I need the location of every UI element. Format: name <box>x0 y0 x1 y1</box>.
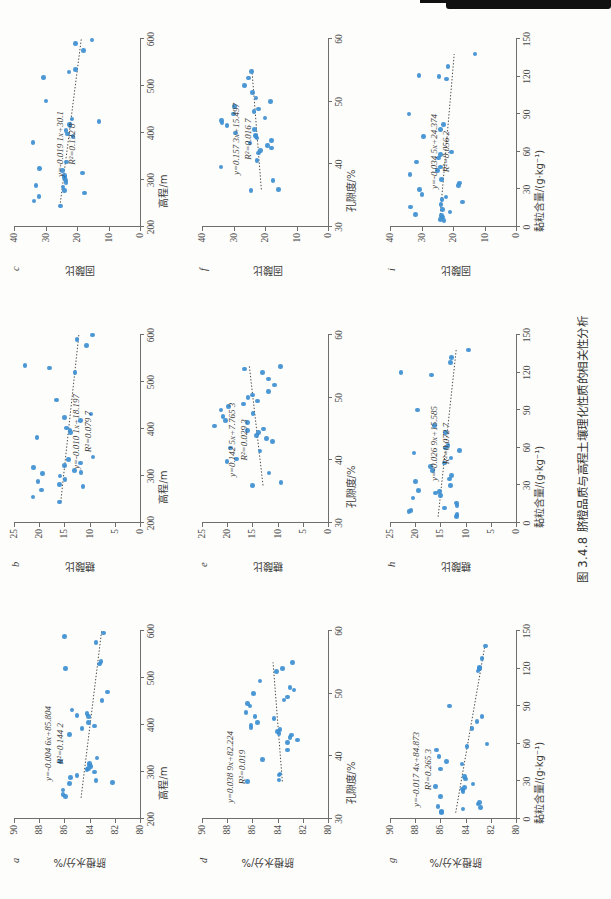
y-axis-line <box>202 522 328 523</box>
data-point <box>81 484 86 489</box>
y-tick <box>390 819 391 823</box>
data-point <box>292 688 297 693</box>
y-tick <box>390 227 391 231</box>
data-point <box>70 708 75 713</box>
data-point <box>289 733 294 738</box>
x-axis-line <box>140 631 141 819</box>
data-point <box>274 669 279 674</box>
scatter-panel-b: b0510152025200300400500600糖酸比高程/my=-0.01… <box>8 319 180 581</box>
data-point <box>57 482 62 487</box>
x-tick <box>140 475 144 476</box>
data-point <box>67 732 72 737</box>
x-tick <box>140 724 144 725</box>
x-tick <box>516 743 520 744</box>
y-tick <box>466 523 467 527</box>
x-axis-line <box>140 335 141 523</box>
y-tick-label: 82 <box>110 825 120 835</box>
data-point <box>251 411 256 416</box>
data-point <box>258 148 263 153</box>
data-point <box>80 171 85 176</box>
y-tick-label: 15 <box>435 529 445 539</box>
figure-caption: 图 3.4.8 脐橙品质与高程土壤理化性质的相关性分析 <box>574 0 590 899</box>
data-point <box>478 805 483 810</box>
data-point <box>457 181 462 186</box>
data-point <box>36 479 41 484</box>
x-axis-title-f: 孔隙度/% <box>343 170 358 213</box>
x-tick <box>140 818 144 819</box>
data-point <box>260 757 265 762</box>
x-tick-label: 150 <box>522 328 532 342</box>
y-tick <box>278 523 279 527</box>
data-point <box>439 809 444 814</box>
data-point <box>277 778 282 783</box>
data-point <box>81 48 86 53</box>
x-tick <box>516 668 520 669</box>
x-tick <box>328 226 332 227</box>
x-tick-label: 40 <box>334 752 344 762</box>
data-point <box>95 756 100 761</box>
regression-annotation-d: y=0.038 9x+82.224R²=0.019 <box>224 731 248 803</box>
y-tick-label: 5 <box>486 529 496 534</box>
data-point <box>461 807 466 812</box>
y-tick <box>115 819 116 823</box>
x-tick <box>328 163 332 164</box>
data-point <box>242 83 247 88</box>
data-point <box>285 748 290 753</box>
x-tick-label: 50 <box>334 393 344 403</box>
y-tick-label: 84 <box>273 825 283 835</box>
data-point <box>251 691 256 696</box>
data-point <box>278 364 283 369</box>
data-point <box>480 656 485 661</box>
y-tick-label: 0 <box>323 529 333 534</box>
x-axis-title-b: 高程/m <box>155 470 170 503</box>
data-point <box>477 665 482 670</box>
panel-letter-d: d <box>198 858 209 863</box>
x-tick <box>516 630 520 631</box>
y-axis-line <box>14 522 140 523</box>
data-point <box>253 714 258 719</box>
x-tick-label: 200 <box>146 220 156 234</box>
data-point <box>54 398 59 403</box>
scatter-panel-c: c010203040200300400500600固酸比高程/my=-0.019… <box>8 23 180 285</box>
data-point <box>37 194 42 199</box>
y-tick <box>39 819 40 823</box>
data-point <box>73 41 78 46</box>
data-point <box>438 794 443 799</box>
regression-annotation-g: y=-0.017 4x+84.873R²=0.265 3 <box>410 732 434 807</box>
y-tick <box>115 523 116 527</box>
y-tick <box>440 819 441 823</box>
data-point <box>454 501 459 506</box>
x-tick <box>140 677 144 678</box>
y-tick <box>252 819 253 823</box>
data-point <box>35 435 40 440</box>
plot-area-g: 8082848688900306090120150 <box>390 631 516 819</box>
data-point <box>460 200 465 205</box>
regression-annotation-i: y=-0.034 5x+24.374R²=0.056 2 <box>428 114 452 189</box>
data-point <box>37 166 42 171</box>
x-tick <box>140 334 144 335</box>
regression-line-h <box>390 335 516 523</box>
data-point <box>473 52 478 57</box>
data-point <box>86 720 91 725</box>
data-point <box>219 165 224 170</box>
y-tick <box>77 227 78 231</box>
y-tick <box>14 227 15 231</box>
y-tick-label: 90 <box>197 825 207 835</box>
y-tick-label: 20 <box>222 529 232 539</box>
x-tick-label: 40 <box>334 160 344 170</box>
scatter-panel-e: e051015202530405060糖酸比孔隙度/%y=0.142 5x+7.… <box>196 319 368 581</box>
y-tick <box>140 523 141 527</box>
y-tick-label: 88 <box>222 825 232 835</box>
r-squared-text-d: R²=0.019 <box>236 731 248 803</box>
data-point <box>34 183 39 188</box>
x-tick-label: 500 <box>146 375 156 389</box>
x-tick <box>140 381 144 382</box>
data-point <box>263 116 268 121</box>
data-point <box>63 666 68 671</box>
data-point <box>41 75 46 80</box>
y-tick <box>140 227 141 231</box>
data-point <box>62 415 67 420</box>
data-point <box>254 96 259 101</box>
y-tick <box>297 227 298 231</box>
scatter-panel-g: g8082848688900306090120150脐橙水分/%黏粒含量/(g·… <box>384 615 556 877</box>
